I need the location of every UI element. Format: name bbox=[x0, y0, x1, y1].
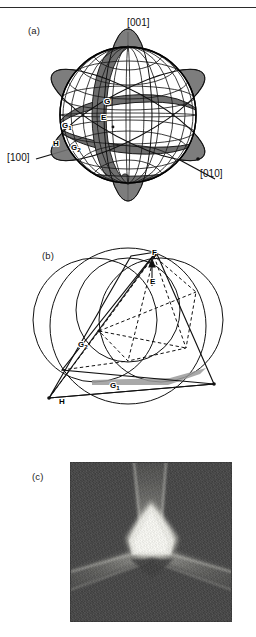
pole-marker-right bbox=[196, 157, 200, 161]
panel-b-graphic bbox=[0, 228, 256, 433]
point-label-b-H-text: H bbox=[59, 397, 65, 406]
point-label-b-H: H bbox=[59, 397, 65, 406]
axis-label-100: [100] bbox=[7, 152, 30, 163]
panel-b-gnomonic-projection bbox=[0, 228, 256, 433]
dashed-chord-5 bbox=[62, 361, 128, 370]
point-label-a-G1: G1 bbox=[62, 121, 72, 131]
top-divider-rule bbox=[0, 7, 256, 8]
point-label-a-E-text: E bbox=[101, 113, 106, 122]
pole-marker-top bbox=[126, 45, 129, 48]
point-label-a-H-text: H bbox=[53, 139, 59, 148]
axis-label-001: [001] bbox=[127, 17, 150, 28]
vertex-marker-right bbox=[212, 382, 216, 386]
trace-baseline bbox=[49, 384, 214, 398]
electron-diffraction-micrograph bbox=[70, 462, 232, 622]
point-label-b-G1-sub: 1 bbox=[116, 384, 119, 391]
point-label-b-F: F bbox=[152, 248, 157, 257]
micrograph-graphic bbox=[70, 462, 232, 622]
point-label-b-E: E bbox=[150, 277, 155, 286]
point-label-a-G1-sub: 1 bbox=[68, 124, 71, 131]
panel-label-a: (a) bbox=[28, 25, 40, 36]
panel-a-graphic bbox=[0, 14, 256, 219]
pole-marker-E bbox=[112, 126, 115, 129]
point-label-b-G1: G1 bbox=[110, 381, 120, 391]
point-label-a-G: G bbox=[104, 97, 110, 106]
projection-circle-inner bbox=[76, 258, 180, 362]
axis-label-010: [010] bbox=[200, 168, 223, 179]
point-label-a-H: H bbox=[53, 139, 59, 148]
panel-label-c: (c) bbox=[32, 471, 44, 482]
panel-label-b: (b) bbox=[42, 250, 54, 261]
figure-root: (a) (b) (c) [001] [100] [010] G E G1 H G… bbox=[0, 0, 256, 637]
point-label-b-G2: G2 bbox=[78, 340, 88, 350]
point-label-b-G2-sub: 2 bbox=[84, 343, 87, 350]
point-label-a-G2-sub: 2 bbox=[77, 146, 80, 153]
point-label-b-F-text: F bbox=[152, 248, 157, 257]
point-label-a-E: E bbox=[101, 113, 106, 122]
vertex-marker-G2 bbox=[98, 330, 101, 333]
point-label-a-G-text: G bbox=[104, 97, 110, 106]
point-label-a-G2: G2 bbox=[71, 143, 81, 153]
vertex-marker-H bbox=[47, 396, 51, 400]
point-label-b-E-text: E bbox=[150, 277, 155, 286]
dashed-chord-2 bbox=[99, 331, 186, 348]
panel-a-reference-sphere bbox=[0, 14, 256, 219]
pole-marker-bottom bbox=[126, 181, 129, 184]
